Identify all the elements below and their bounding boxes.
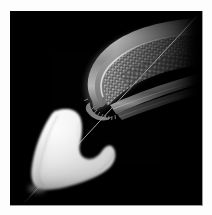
pale-wing-structure-group [31, 109, 115, 190]
dark-field-plate [10, 11, 202, 205]
plate-stage [10, 11, 202, 205]
specimen-artwork [10, 11, 202, 205]
figure-root: Dark-field anatomical specimen plate Mon… [0, 0, 212, 215]
apex-wisp [28, 184, 46, 194]
tooth-root-apex-group [84, 18, 202, 120]
